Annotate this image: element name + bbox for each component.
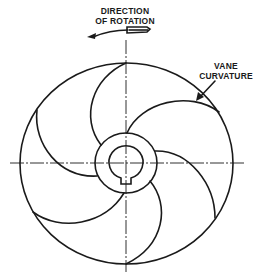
vane-5	[33, 193, 124, 223]
impeller-diagram: DIRECTION OF ROTATION VANE CURVATURE	[0, 0, 259, 279]
vane-3	[155, 151, 215, 218]
vane-6	[37, 110, 97, 176]
rotation-arrowhead-icon	[87, 33, 96, 39]
outer-rim	[20, 63, 233, 264]
impeller-drawing	[0, 0, 259, 279]
rotation-label-line-2: OF ROTATION	[80, 16, 170, 26]
vane-curvature-label: VANE CURVATURE	[193, 61, 259, 81]
vane-label-line-2: CURVATURE	[193, 71, 259, 81]
vane-4	[126, 181, 161, 264]
vane-2	[127, 101, 219, 133]
rotation-arrow-shaft	[93, 30, 128, 37]
direction-of-rotation-label: DIRECTION OF ROTATION	[80, 6, 170, 26]
vane-label-line-1: VANE	[193, 61, 259, 71]
vane-curvature-leader	[200, 81, 215, 97]
rotation-label-line-1: DIRECTION	[80, 6, 170, 16]
